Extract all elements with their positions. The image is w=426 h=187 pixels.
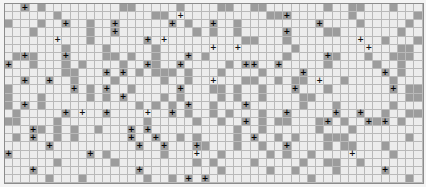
board-cell[interactable]: [414, 126, 422, 134]
board-cell[interactable]: [111, 134, 119, 142]
board-cell[interactable]: +: [365, 45, 373, 53]
board-cell[interactable]: [5, 28, 13, 36]
board-cell[interactable]: [251, 45, 259, 53]
board-cell[interactable]: [5, 69, 13, 77]
board-cell[interactable]: [111, 85, 119, 93]
board-cell[interactable]: [111, 61, 119, 69]
board-cell[interactable]: [275, 28, 283, 36]
board-cell[interactable]: [128, 12, 136, 20]
board-cell[interactable]: [79, 77, 87, 85]
board-cell[interactable]: [152, 142, 160, 150]
board-cell[interactable]: [406, 12, 414, 20]
board-cell[interactable]: [202, 77, 210, 85]
board-cell[interactable]: [357, 159, 365, 167]
board-cell[interactable]: [308, 53, 316, 61]
board-cell[interactable]: [275, 69, 283, 77]
board-cell[interactable]: [365, 134, 373, 142]
board-cell[interactable]: [128, 85, 136, 93]
board-cell[interactable]: +: [251, 134, 259, 142]
board-cell[interactable]: [120, 126, 128, 134]
board-cell[interactable]: [365, 20, 373, 28]
board-cell[interactable]: [283, 37, 291, 45]
board-cell[interactable]: [169, 61, 177, 69]
board-cell[interactable]: [144, 134, 152, 142]
board-cell[interactable]: [251, 118, 259, 126]
board-cell[interactable]: [177, 102, 185, 110]
board-cell[interactable]: [365, 159, 373, 167]
board-cell[interactable]: [136, 77, 144, 85]
board-cell[interactable]: [128, 28, 136, 36]
board-cell[interactable]: [259, 37, 267, 45]
board-cell[interactable]: [95, 110, 103, 118]
board-cell[interactable]: [373, 175, 381, 183]
board-cell[interactable]: [218, 28, 226, 36]
board-cell[interactable]: [144, 20, 152, 28]
board-cell[interactable]: +: [242, 102, 250, 110]
board-cell[interactable]: [120, 28, 128, 36]
board-cell[interactable]: [5, 102, 13, 110]
board-cell[interactable]: [259, 20, 267, 28]
board-cell[interactable]: [111, 37, 119, 45]
board-cell[interactable]: [341, 53, 349, 61]
board-cell[interactable]: [62, 151, 70, 159]
board-cell[interactable]: [38, 110, 46, 118]
board-cell[interactable]: [79, 37, 87, 45]
board-cell[interactable]: [30, 61, 38, 69]
board-cell[interactable]: [62, 167, 70, 175]
board-cell[interactable]: +: [390, 85, 398, 93]
board-cell[interactable]: [300, 167, 308, 175]
board-cell[interactable]: [341, 69, 349, 77]
board-cell[interactable]: [62, 85, 70, 93]
board-cell[interactable]: [5, 126, 13, 134]
board-cell[interactable]: [218, 94, 226, 102]
board-cell[interactable]: [54, 175, 62, 183]
board-cell[interactable]: [161, 53, 169, 61]
board-cell[interactable]: [202, 159, 210, 167]
board-cell[interactable]: [87, 126, 95, 134]
board-cell[interactable]: [79, 53, 87, 61]
board-cell[interactable]: [365, 69, 373, 77]
board-cell[interactable]: +: [177, 61, 185, 69]
board-cell[interactable]: [398, 53, 406, 61]
board-cell[interactable]: [406, 159, 414, 167]
board-cell[interactable]: +: [283, 12, 291, 20]
board-cell[interactable]: [87, 110, 95, 118]
board-cell[interactable]: [357, 151, 365, 159]
board-cell[interactable]: [365, 102, 373, 110]
board-cell[interactable]: +: [120, 69, 128, 77]
board-cell[interactable]: [87, 77, 95, 85]
board-cell[interactable]: [95, 4, 103, 12]
board-cell[interactable]: [308, 69, 316, 77]
board-cell[interactable]: [333, 85, 341, 93]
board-cell[interactable]: [292, 167, 300, 175]
board-cell[interactable]: [333, 159, 341, 167]
board-cell[interactable]: [242, 142, 250, 150]
board-cell[interactable]: [161, 45, 169, 53]
board-cell[interactable]: [226, 20, 234, 28]
board-cell[interactable]: +: [21, 4, 29, 12]
board-cell[interactable]: [308, 4, 316, 12]
board-cell[interactable]: [218, 134, 226, 142]
board-cell[interactable]: +: [21, 53, 29, 61]
board-cell[interactable]: [398, 94, 406, 102]
board-cell[interactable]: [259, 167, 267, 175]
board-cell[interactable]: [46, 102, 54, 110]
board-cell[interactable]: [251, 159, 259, 167]
board-cell[interactable]: [144, 77, 152, 85]
board-cell[interactable]: [218, 85, 226, 93]
board-cell[interactable]: [79, 4, 87, 12]
board-cell[interactable]: [406, 61, 414, 69]
board-cell[interactable]: [169, 69, 177, 77]
board-cell[interactable]: [120, 37, 128, 45]
board-cell[interactable]: +: [144, 110, 152, 118]
board-cell[interactable]: [120, 77, 128, 85]
board-cell[interactable]: [87, 12, 95, 20]
board-cell[interactable]: [152, 53, 160, 61]
board-cell[interactable]: [414, 28, 422, 36]
board-cell[interactable]: [169, 85, 177, 93]
board-cell[interactable]: [373, 118, 381, 126]
board-cell[interactable]: [30, 69, 38, 77]
board-cell[interactable]: [136, 37, 144, 45]
board-cell[interactable]: [169, 151, 177, 159]
board-cell[interactable]: [324, 102, 332, 110]
